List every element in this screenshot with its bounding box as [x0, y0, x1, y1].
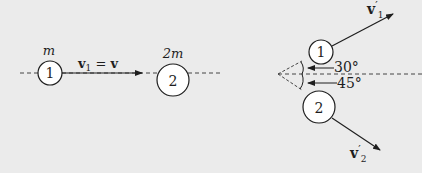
v2p-sub: 2	[361, 154, 367, 164]
ball-1-number: 1	[46, 65, 55, 81]
angle-arc-30	[301, 62, 303, 74]
velocity-equals: =	[91, 56, 110, 71]
before-collision: 1 m 2 2m v1 = v	[20, 43, 222, 96]
ball-2-mass-label: 2m	[162, 46, 184, 61]
v1p-sub: 1	[378, 10, 384, 20]
ball-2-number: 2	[169, 73, 178, 89]
ball-1-after-number: 1	[317, 44, 326, 60]
velocity-rhs: v	[109, 56, 118, 71]
angle-ray-upper	[278, 61, 302, 74]
ball-1-mass-label: m	[43, 43, 55, 58]
angle-arc-45	[300, 74, 303, 89]
angle-label-30: 30°	[334, 59, 359, 75]
velocity-arrow-v1-prime	[332, 14, 393, 46]
ball-2-after-number: 2	[315, 100, 324, 116]
velocity-label-v1: v1 = v	[77, 56, 118, 73]
after-collision: 30° 45° 1 2 v′1 v′2	[278, 0, 422, 164]
velocity-label-v2-prime: v′2	[349, 143, 366, 164]
collision-diagram: 1 m 2 2m v1 = v 30° 45° 1 2 v′1 v′2	[0, 0, 422, 173]
velocity-label-v1-prime: v′1	[366, 0, 383, 20]
angle-ray-lower	[278, 74, 302, 90]
angle-label-45: 45°	[337, 75, 362, 91]
